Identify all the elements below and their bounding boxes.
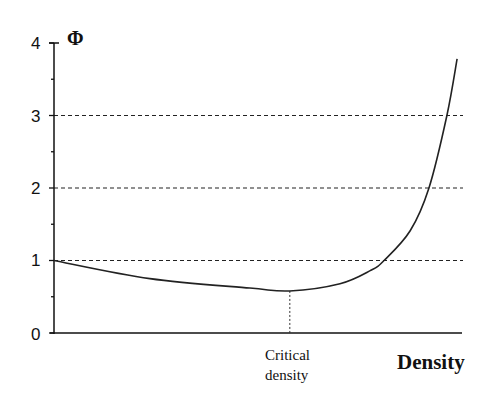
y-tick-label-3: 3: [31, 107, 40, 126]
y-tick-label-4: 4: [31, 34, 40, 53]
critical-density-label-line2: density: [265, 367, 309, 383]
horizontal-gridlines: [54, 116, 463, 261]
critical-density-label-line1: Critical: [265, 347, 310, 363]
y-tick-label-2: 2: [31, 179, 40, 198]
y-axis-label-phi: Φ: [67, 27, 84, 49]
y-tick-label-1: 1: [31, 251, 40, 270]
chart-canvas: 4 3 2 1 0 Φ Critical density Density: [0, 0, 498, 404]
y-tick-label-0: 0: [31, 325, 40, 344]
phi-density-curve: [54, 59, 457, 291]
x-axis-title: Density: [397, 350, 465, 374]
